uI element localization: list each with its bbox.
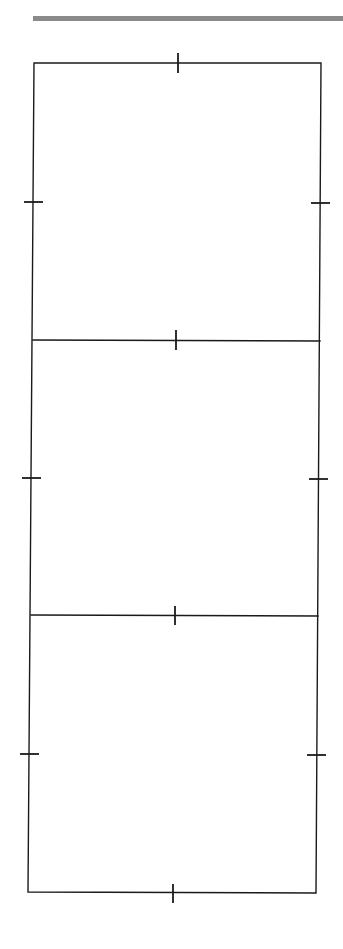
panel-1 [24,53,330,203]
panel-diagram [0,0,343,949]
panel-3 [20,606,326,903]
panel-2 [22,330,328,479]
outer-frame [28,63,321,893]
